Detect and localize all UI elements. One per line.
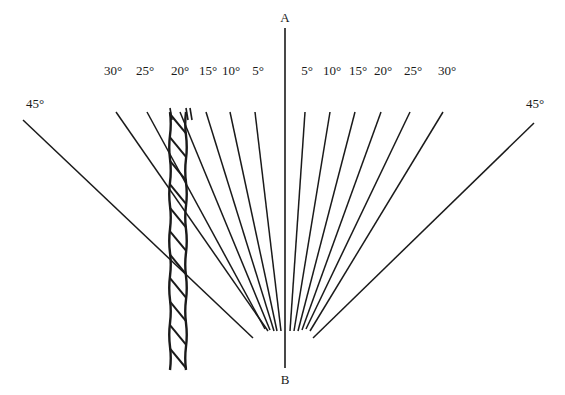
yarn-twist-hatch: [170, 161, 186, 180]
right-45-degree-label: 45°: [526, 96, 544, 111]
yarn-left-edge: [169, 112, 171, 370]
left-45-degree-label: 45°: [26, 96, 44, 111]
left-30-degree-line: [116, 112, 268, 331]
left-20-degree-label: 20°: [171, 63, 189, 78]
right-30-degree-label: 30°: [438, 63, 456, 78]
left-5-degree-line: [255, 112, 281, 331]
left-10-degree-label: 10°: [222, 63, 240, 78]
right-20-degree-label: 20°: [374, 63, 392, 78]
diagram-canvas: A B 30°25°20°15°10°5° 5°10°15°20°25°30° …: [0, 0, 565, 395]
twisted-yarn: [169, 108, 192, 370]
right-15-degree-label: 15°: [349, 63, 367, 78]
yarn-fiber-end: [190, 108, 192, 120]
central-axis: A B: [280, 10, 290, 387]
left-30-degree-label: 30°: [104, 63, 122, 78]
right-30-degree-line: [310, 112, 443, 331]
left-25-degree-line: [147, 112, 265, 329]
yarn-twist-hatch: [170, 137, 186, 156]
yarn-twist-hatch: [170, 208, 186, 227]
left-15-degree-line: [206, 112, 274, 331]
left-15-degree-label: 15°: [199, 63, 217, 78]
left-25-degree-label: 25°: [136, 63, 154, 78]
yarn-right-edge: [185, 112, 187, 370]
right-20-degree-line: [302, 112, 381, 330]
twist-angle-diagram: A B 30°25°20°15°10°5° 5°10°15°20°25°30° …: [0, 0, 565, 395]
axis-label-b: B: [281, 372, 290, 387]
right-25-degree-label: 25°: [404, 63, 422, 78]
right-angle-lines: 5°10°15°20°25°30°: [290, 63, 456, 331]
left-5-degree-label: 5°: [252, 63, 264, 78]
yarn-twist-hatch: [170, 325, 186, 344]
left-20-degree-line: [180, 112, 270, 330]
left-angle-lines: 30°25°20°15°10°5°: [104, 63, 281, 331]
right-15-degree-line: [298, 112, 355, 331]
outer-45-degree-lines: 45°45°: [23, 96, 544, 338]
right-10-degree-line: [294, 112, 330, 331]
axis-label-a: A: [280, 10, 290, 25]
yarn-twist-hatch: [170, 114, 186, 133]
yarn-twist-hatch: [170, 278, 186, 297]
left-10-degree-line: [230, 112, 277, 331]
right-5-degree-line: [290, 112, 305, 331]
right-10-degree-label: 10°: [323, 63, 341, 78]
right-25-degree-line: [306, 112, 410, 329]
yarn-twist-hatch: [170, 231, 186, 250]
right-45-degree-line: [313, 123, 534, 338]
yarn-twist-hatch: [170, 349, 186, 368]
right-5-degree-label: 5°: [301, 63, 313, 78]
yarn-twist-hatch: [170, 302, 186, 321]
